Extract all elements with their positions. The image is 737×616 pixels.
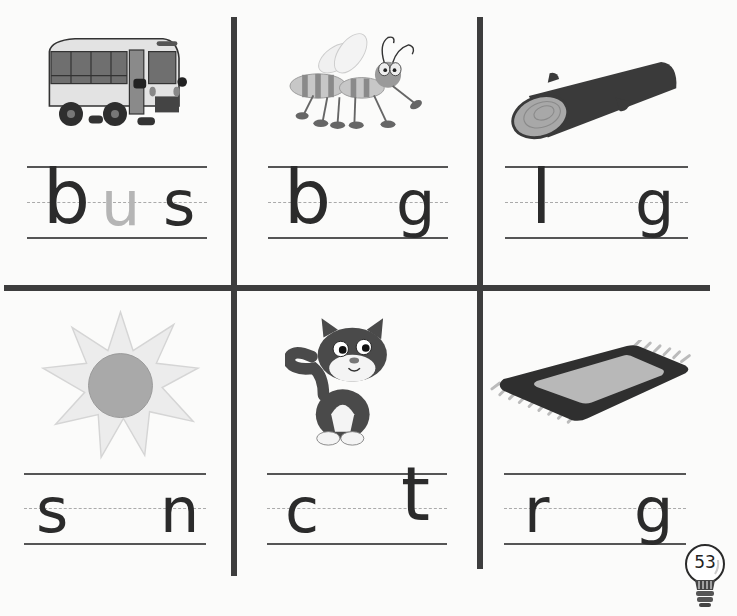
vertical-divider-right — [477, 17, 483, 569]
letter-1: c — [285, 480, 319, 552]
letter-3: s — [163, 173, 195, 245]
letter-3: g — [635, 173, 674, 245]
letter-3: g — [396, 173, 435, 245]
letter-3: n — [160, 480, 199, 552]
page-number: 53 — [683, 552, 727, 572]
horizontal-divider — [4, 285, 710, 291]
writing-lines-cat: c t — [267, 473, 447, 583]
cat-icon — [285, 318, 410, 453]
letter-1: l — [531, 160, 552, 232]
letter-3: g — [634, 480, 673, 552]
vertical-divider-left — [231, 17, 237, 576]
worksheet-page: b u s — [0, 0, 737, 616]
writing-lines-bus: b u s — [27, 166, 207, 276]
log-icon — [510, 60, 680, 145]
letter-3: t — [401, 457, 430, 529]
letter-1: r — [524, 480, 550, 552]
rug-icon — [490, 340, 705, 428]
page-number-badge: 53 — [683, 544, 727, 616]
bus-icon — [33, 34, 213, 146]
writing-lines-log: l g — [505, 166, 685, 276]
bug-icon — [285, 30, 435, 142]
writing-lines-bug: b g — [268, 166, 448, 276]
letter-1: s — [36, 480, 68, 552]
traced-vowel: u — [101, 173, 140, 245]
sun-icon — [38, 310, 203, 465]
writing-lines-sun: s n — [24, 473, 204, 583]
letter-1: b — [43, 160, 90, 232]
writing-lines-rug: r g — [504, 473, 684, 583]
letter-1: b — [284, 160, 331, 232]
